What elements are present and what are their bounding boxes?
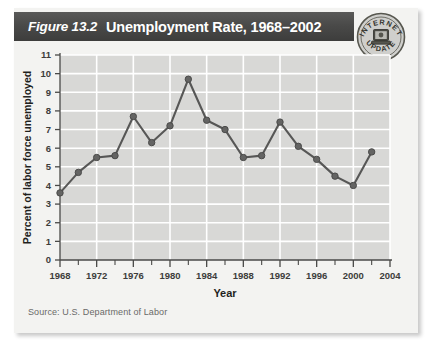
y-tick-label: 0 [46,254,51,265]
data-point [112,152,118,158]
data-point [185,76,191,82]
y-tick-label: 5 [46,161,52,172]
data-point [167,123,173,129]
data-point [277,119,283,125]
y-tick-label: 6 [46,143,51,154]
data-point [203,117,209,123]
y-tick-label: 2 [46,217,51,228]
x-axis-title: Year [213,287,237,299]
x-tick-label: 2000 [343,270,364,281]
x-axis-ticks: 1968197219761980198419881992199620002004 [49,260,401,281]
data-point [93,154,99,160]
x-tick-label: 1984 [196,270,218,281]
y-tick-label: 1 [46,236,52,247]
data-point [130,113,136,119]
data-point [57,190,63,196]
source-note: Source: U.S. Department of Labor [28,307,167,317]
unemployment-line-chart: 0123456789101119681972197619801984198819… [14,41,418,333]
data-point [332,173,338,179]
plot-area [60,55,390,260]
figure-title-bar: Figure 13.2 Unemployment Rate, 1968–2002 [14,12,354,41]
x-tick-label: 1968 [49,270,70,281]
y-axis-title: Percent of labor force unemployed [21,71,33,244]
figure-title: Unemployment Rate, 1968–2002 [106,19,321,35]
x-tick-label: 1996 [306,270,327,281]
y-tick-label: 10 [40,68,51,79]
x-tick-label: 1992 [269,270,290,281]
y-axis-ticks: 01234567891011 [40,49,60,265]
y-tick-label: 8 [46,105,51,116]
data-point [148,139,154,145]
data-point [222,126,228,132]
data-point [75,169,81,175]
x-tick-label: 2004 [379,270,401,281]
figure-number: Figure 13.2 [28,19,97,34]
chart-container: 0123456789101119681972197619801984198819… [14,41,418,333]
x-tick-label: 1972 [86,270,107,281]
y-tick-label: 9 [46,87,51,98]
figure-card: Figure 13.2 Unemployment Rate, 1968–2002… [14,8,418,333]
x-tick-label: 1980 [159,270,180,281]
data-point [350,182,356,188]
y-tick-label: 3 [46,198,51,209]
x-tick-label: 1976 [123,270,144,281]
y-tick-label: 11 [41,49,52,60]
y-tick-label: 7 [46,124,51,135]
data-point [240,154,246,160]
x-tick-label: 1988 [233,270,254,281]
data-point [313,156,319,162]
data-point [258,152,264,158]
y-tick-label: 4 [46,180,52,191]
data-point [368,149,374,155]
data-point [295,143,301,149]
